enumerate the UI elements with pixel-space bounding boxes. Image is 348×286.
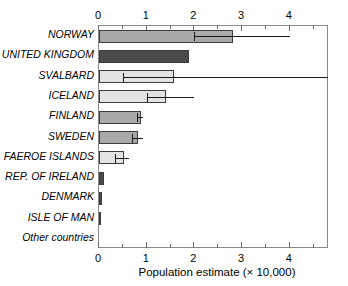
axis-tick-label: 4 bbox=[274, 253, 304, 264]
error-bar-cap bbox=[137, 113, 138, 122]
bar bbox=[99, 172, 104, 185]
error-bar-cap bbox=[123, 73, 124, 82]
axis-tick-label: 3 bbox=[226, 253, 256, 264]
category-label: UNITED KINGDOM bbox=[0, 49, 94, 60]
category-label: NORWAY bbox=[0, 29, 94, 40]
axis-tick-label: 0 bbox=[83, 253, 113, 264]
category-label: FINLAND bbox=[0, 110, 94, 121]
bar bbox=[99, 212, 101, 225]
category-label: FAEROE ISLANDS bbox=[0, 151, 94, 162]
error-bar bbox=[194, 36, 289, 37]
error-bar-cap bbox=[115, 154, 116, 163]
x-axis-title: Population estimate (× 10,000) bbox=[0, 266, 348, 278]
axis-tick-label: 1 bbox=[131, 253, 161, 264]
category-label: ICELAND bbox=[0, 90, 94, 101]
error-bar-cap bbox=[132, 134, 133, 143]
error-bar-cap bbox=[194, 32, 195, 41]
axis-tick-label: 2 bbox=[178, 253, 208, 264]
category-label: ISLE OF MAN bbox=[0, 212, 94, 223]
axis-tick-label: 3 bbox=[226, 10, 256, 21]
bar bbox=[99, 111, 141, 124]
error-bar bbox=[147, 97, 195, 98]
axis-tick-label: 1 bbox=[131, 10, 161, 21]
category-label: DENMARK bbox=[0, 191, 94, 202]
category-label: SVALBARD bbox=[0, 70, 94, 81]
population-estimate-bar-chart: NORWAYUNITED KINGDOMSVALBARDICELANDFINLA… bbox=[0, 0, 348, 286]
error-bar bbox=[123, 77, 328, 78]
axis-tick-label: 0 bbox=[83, 10, 113, 21]
category-label: SWEDEN bbox=[0, 131, 94, 142]
error-bar bbox=[132, 138, 142, 139]
x-axis-title-text: Population estimate (× 10,000) bbox=[53, 266, 296, 278]
bar bbox=[99, 50, 189, 63]
bars-layer bbox=[99, 26, 328, 248]
category-label: Other countries bbox=[0, 232, 94, 243]
category-label: REP. OF IRELAND bbox=[0, 171, 94, 182]
bar bbox=[99, 192, 102, 205]
axis-tick-label: 2 bbox=[178, 10, 208, 21]
error-bar-cap bbox=[147, 93, 148, 102]
axis-tick-label: 4 bbox=[274, 10, 304, 21]
error-bar bbox=[115, 158, 129, 159]
